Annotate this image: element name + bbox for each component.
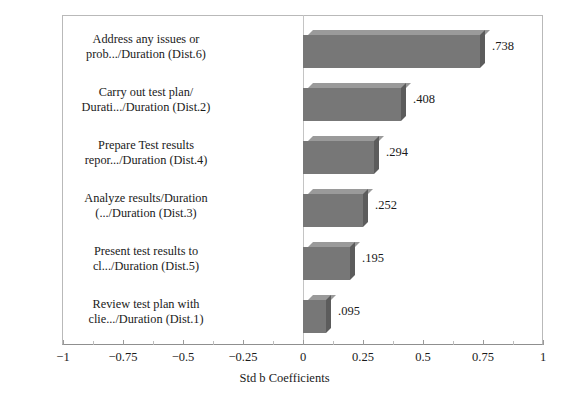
bar-value-label: .408 (413, 92, 435, 107)
bar-value-label: .738 (492, 39, 514, 54)
bar-top-face (308, 136, 384, 141)
x-tick-minor (153, 341, 154, 345)
bar-value-label: .252 (375, 198, 397, 213)
x-tick-label: −0.25 (229, 350, 258, 365)
x-tick-label: 0.5 (415, 350, 431, 365)
category-label-line2: clie.../Duration (Dist.1) (0, 312, 292, 327)
category-label-line1: Carry out test plan/ (0, 85, 292, 100)
x-tick-minor (513, 341, 514, 345)
bar-top-face (308, 30, 490, 35)
x-tick-major (63, 340, 64, 345)
category-label-line1: Present test results to (0, 244, 292, 259)
x-tick-major (123, 340, 124, 345)
x-tick-label: 0.25 (352, 350, 374, 365)
x-tick-label: 0.75 (472, 350, 494, 365)
bar: .408 (303, 83, 406, 121)
bar-value-label: .095 (338, 304, 360, 319)
bar-side-face (350, 242, 355, 280)
x-tick-major (303, 340, 304, 345)
category-label: Present test results tocl.../Duration (D… (0, 244, 292, 274)
category-label: Address any issues orprob.../Duration (D… (0, 32, 292, 62)
bar: .252 (303, 189, 368, 227)
x-axis-title: Std b Coefficients (0, 371, 569, 386)
category-label-line2: prob.../Duration (Dist.6) (0, 47, 292, 62)
category-label-line1: Analyze results/Duration (0, 191, 292, 206)
x-tick-major (543, 340, 544, 345)
category-label-line2: cl.../Duration (Dist.5) (0, 259, 292, 274)
bar-front-face (303, 35, 480, 68)
x-tick-minor (93, 341, 94, 345)
bar-value-label: .195 (362, 251, 384, 266)
category-label: Prepare Test resultsrepor.../Duration (D… (0, 138, 292, 168)
bar-chart: .738.408.294.252.195.095 Address any iss… (0, 0, 569, 396)
x-tick-major (483, 340, 484, 345)
x-tick-major (183, 340, 184, 345)
bar-front-face (303, 300, 326, 333)
category-label-line2: Durati.../Duration (Dist.2) (0, 100, 292, 115)
bar-top-face (308, 83, 411, 88)
x-tick-minor (213, 341, 214, 345)
bar-front-face (303, 141, 374, 174)
bar: .095 (303, 295, 331, 333)
bar: .738 (303, 30, 485, 68)
bar-side-face (374, 136, 379, 174)
x-tick-minor (333, 341, 334, 345)
bar-front-face (303, 247, 350, 280)
x-tick-minor (273, 341, 274, 345)
x-tick-major (423, 340, 424, 345)
x-tick-minor (393, 341, 394, 345)
x-tick-label: 0 (300, 350, 306, 365)
category-label-line2: repor.../Duration (Dist.4) (0, 153, 292, 168)
bar-side-face (363, 189, 368, 227)
x-tick-label: −0.5 (172, 350, 195, 365)
category-label-line2: (.../Duration (Dist.3) (0, 206, 292, 221)
x-tick-major (363, 340, 364, 345)
x-tick-label: 1 (540, 350, 546, 365)
bar: .195 (303, 242, 355, 280)
x-tick-major (243, 340, 244, 345)
bar-side-face (326, 295, 331, 333)
bar-side-face (480, 30, 485, 68)
category-label: Review test plan withclie.../Duration (D… (0, 297, 292, 327)
category-label: Analyze results/Duration(.../Duration (D… (0, 191, 292, 221)
bar-front-face (303, 194, 363, 227)
x-tick-label: −0.75 (109, 350, 138, 365)
bar: .294 (303, 136, 379, 174)
category-label-line1: Review test plan with (0, 297, 292, 312)
category-label: Carry out test plan/Durati.../Duration (… (0, 85, 292, 115)
bar-value-label: .294 (386, 145, 408, 160)
category-label-line1: Prepare Test results (0, 138, 292, 153)
bar-side-face (401, 83, 406, 121)
category-label-line1: Address any issues or (0, 32, 292, 47)
bar-front-face (303, 88, 401, 121)
x-tick-label: −1 (56, 350, 69, 365)
x-tick-minor (453, 341, 454, 345)
